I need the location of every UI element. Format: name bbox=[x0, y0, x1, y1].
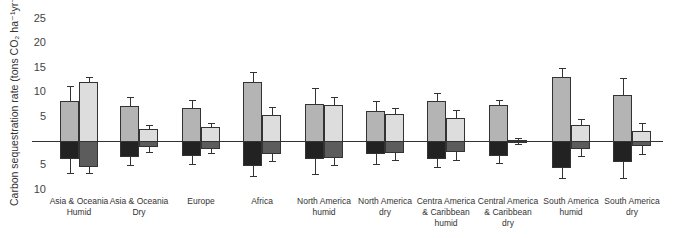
y-tick-label: 5 bbox=[26, 158, 46, 170]
error-bar bbox=[315, 88, 316, 104]
error-cap bbox=[127, 165, 134, 166]
error-cap bbox=[496, 100, 503, 101]
bar-negative bbox=[60, 141, 79, 159]
error-cap bbox=[453, 160, 460, 161]
error-cap bbox=[269, 107, 276, 108]
error-cap bbox=[578, 119, 585, 120]
error-cap bbox=[127, 97, 134, 98]
error-bar bbox=[642, 123, 643, 131]
error-bar bbox=[395, 153, 396, 160]
error-cap bbox=[331, 165, 338, 166]
error-cap bbox=[250, 72, 257, 73]
error-bar bbox=[437, 159, 438, 167]
y-tick-label: 25 bbox=[26, 12, 46, 24]
bar-negative bbox=[571, 141, 590, 149]
error-cap bbox=[250, 176, 257, 177]
error-cap bbox=[373, 164, 380, 165]
error-bar bbox=[437, 93, 438, 101]
error-cap bbox=[67, 173, 74, 174]
bar-negative bbox=[427, 141, 446, 159]
error-bar bbox=[192, 100, 193, 108]
error-bar bbox=[334, 158, 335, 166]
bar-negative bbox=[120, 141, 139, 157]
bar-negative bbox=[324, 141, 343, 158]
y-tick-label: 15 bbox=[26, 61, 46, 73]
y-axis-label: Carbon sequestration rate (tons CO₂ ha⁻¹… bbox=[8, 6, 20, 206]
error-bar bbox=[253, 166, 254, 176]
bar-negative bbox=[385, 141, 404, 153]
bar-negative bbox=[79, 141, 98, 167]
bar-negative bbox=[613, 141, 632, 162]
bar-positive bbox=[79, 82, 98, 142]
error-cap bbox=[392, 108, 399, 109]
y-tick-label: 5 bbox=[26, 110, 46, 122]
error-cap bbox=[269, 161, 276, 162]
error-bar bbox=[376, 101, 377, 111]
error-cap bbox=[189, 100, 196, 101]
error-bar bbox=[315, 159, 316, 175]
error-cap bbox=[496, 163, 503, 164]
error-cap bbox=[639, 154, 646, 155]
bar-positive bbox=[243, 82, 262, 142]
bar-positive bbox=[552, 77, 571, 142]
error-bar bbox=[623, 162, 624, 178]
error-cap bbox=[146, 125, 153, 126]
error-cap bbox=[515, 138, 522, 139]
bar-negative bbox=[366, 141, 385, 154]
error-bar bbox=[272, 107, 273, 115]
error-cap bbox=[620, 78, 627, 79]
bar-negative bbox=[262, 141, 281, 154]
error-cap bbox=[208, 123, 215, 124]
category-label: South Americadry bbox=[595, 196, 669, 218]
error-cap bbox=[312, 88, 319, 89]
bar-positive bbox=[571, 125, 590, 142]
error-bar bbox=[642, 146, 643, 154]
bar-negative bbox=[305, 141, 324, 159]
carbon-sequestration-chart: Carbon sequestration rate (tons CO₂ ha⁻¹… bbox=[0, 0, 676, 238]
bar-negative bbox=[182, 141, 201, 156]
bar-positive bbox=[489, 105, 508, 142]
error-cap bbox=[146, 152, 153, 153]
error-bar bbox=[499, 156, 500, 163]
error-cap bbox=[373, 101, 380, 102]
error-cap bbox=[559, 178, 566, 179]
error-cap bbox=[392, 160, 399, 161]
error-bar bbox=[456, 110, 457, 118]
bar-negative bbox=[243, 141, 262, 166]
error-cap bbox=[331, 97, 338, 98]
error-cap bbox=[208, 153, 215, 154]
error-bar bbox=[130, 157, 131, 165]
error-cap bbox=[312, 174, 319, 175]
bar-positive bbox=[120, 106, 139, 142]
error-bar bbox=[456, 152, 457, 160]
bar-positive bbox=[613, 95, 632, 142]
bar-positive bbox=[427, 101, 446, 142]
error-bar bbox=[562, 168, 563, 177]
error-cap bbox=[434, 167, 441, 168]
error-cap bbox=[434, 93, 441, 94]
error-bar bbox=[623, 78, 624, 95]
error-bar bbox=[70, 159, 71, 173]
bar-negative bbox=[446, 141, 465, 152]
y-tick-label: 10 bbox=[26, 183, 46, 195]
error-bar bbox=[130, 97, 131, 106]
bar-positive bbox=[366, 111, 385, 142]
bar-positive bbox=[324, 105, 343, 142]
zero-axis-line bbox=[32, 141, 663, 142]
y-tick-label: 10 bbox=[26, 85, 46, 97]
bar-negative bbox=[489, 141, 508, 156]
bar-positive bbox=[60, 101, 79, 142]
error-bar bbox=[272, 154, 273, 162]
error-cap bbox=[620, 178, 627, 179]
error-bar bbox=[562, 68, 563, 77]
error-bar bbox=[376, 154, 377, 164]
error-cap bbox=[67, 86, 74, 87]
bar-negative bbox=[201, 141, 220, 149]
bar-positive bbox=[262, 115, 281, 142]
error-cap bbox=[86, 173, 93, 174]
error-cap bbox=[639, 123, 646, 124]
bar-positive bbox=[201, 127, 220, 142]
bar-negative bbox=[552, 141, 571, 168]
error-cap bbox=[515, 144, 522, 145]
error-cap bbox=[189, 164, 196, 165]
